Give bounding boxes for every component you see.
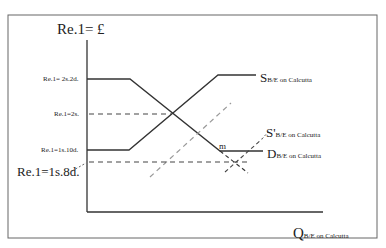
- label-lower-gold-point: Re.1=1s.10d.: [41, 147, 78, 154]
- supply-shifted-curve: [225, 139, 262, 172]
- demand-curve: [87, 79, 263, 151]
- label-par: Re.1=2s.: [54, 111, 79, 118]
- label-demand-curve: DB/E on Calcutta: [267, 145, 321, 161]
- y-axis-title: Re.1= £: [57, 22, 105, 37]
- label-supply-curve: SB/E on Calcutta: [260, 69, 312, 85]
- frame-border: [8, 15, 377, 238]
- point-m-label: m: [219, 142, 226, 151]
- label-supply-shifted-curve: S'B/E on Calcutta: [266, 124, 320, 140]
- diagram-canvas: [0, 0, 386, 248]
- label-upper-gold-point: Re.1= 2s.2d.: [43, 76, 78, 83]
- x-axis-title: QB/E on Calcutta: [293, 225, 349, 241]
- label-new-equilibrium: Re.1=1s.8d.: [17, 165, 80, 178]
